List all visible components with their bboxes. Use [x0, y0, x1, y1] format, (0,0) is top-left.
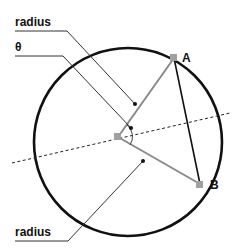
leader-line-radius-top	[15, 31, 135, 104]
point-a-marker	[170, 54, 177, 61]
radius-line-a	[118, 58, 174, 137]
leader-dot-radius-bottom	[141, 159, 145, 163]
center-point	[114, 133, 121, 140]
label-theta: θ	[15, 40, 22, 54]
label-radius-bottom: radius	[15, 225, 51, 239]
circle-chord-diagram: radius θ radius A B	[0, 0, 241, 251]
point-b-marker	[196, 181, 203, 188]
label-radius-top: radius	[15, 15, 51, 29]
leader-line-theta	[15, 56, 131, 128]
label-point-a: A	[182, 51, 191, 65]
leader-dot-theta	[129, 126, 133, 130]
leader-dot-radius-top	[133, 102, 137, 106]
label-point-b: B	[210, 178, 219, 192]
